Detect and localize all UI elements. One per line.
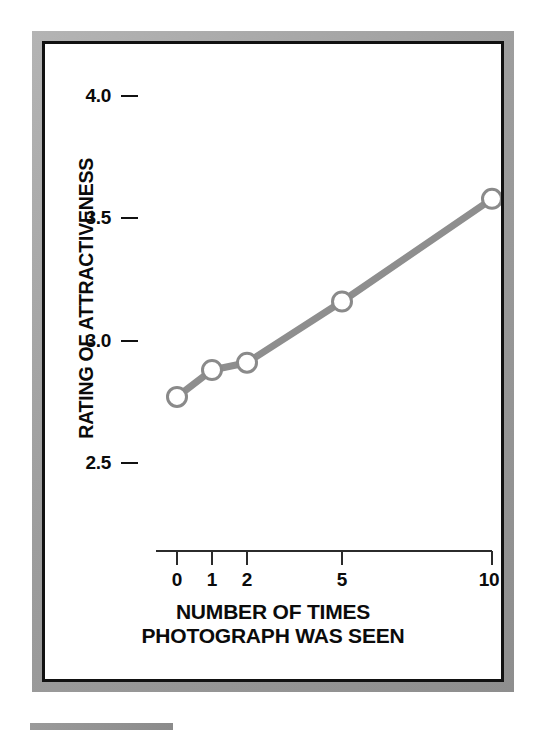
figure-frame: RATING OF ATTRACTIVENESS 4.0 3.5 3.0 2.5 — [32, 31, 514, 692]
x-axis-tick-label-1: 1 — [207, 569, 217, 591]
data-point-1 — [203, 361, 222, 380]
x-axis-tick-label-0: 0 — [172, 569, 182, 591]
data-point-markers — [168, 189, 502, 406]
figure-inner-border: RATING OF ATTRACTIVENESS 4.0 3.5 3.0 2.5 — [42, 41, 504, 682]
data-point-0 — [168, 387, 187, 406]
data-point-10 — [483, 189, 502, 208]
x-axis-title-line-1: NUMBER OF TIMES — [45, 600, 501, 624]
caption-rule — [30, 723, 173, 730]
data-point-2 — [238, 353, 257, 372]
data-point-5 — [333, 292, 352, 311]
x-axis-tick-label-5: 5 — [337, 569, 347, 591]
x-axis-tick-marks — [177, 551, 492, 565]
chart-svg — [45, 44, 501, 679]
x-axis-tick-label-10: 10 — [479, 569, 500, 591]
x-axis-tick-label-2: 2 — [242, 569, 252, 591]
plot-area: RATING OF ATTRACTIVENESS 4.0 3.5 3.0 2.5 — [45, 44, 501, 679]
x-axis-title: NUMBER OF TIMES PHOTOGRAPH WAS SEEN — [45, 600, 501, 647]
x-axis-title-line-2: PHOTOGRAPH WAS SEEN — [45, 624, 501, 648]
